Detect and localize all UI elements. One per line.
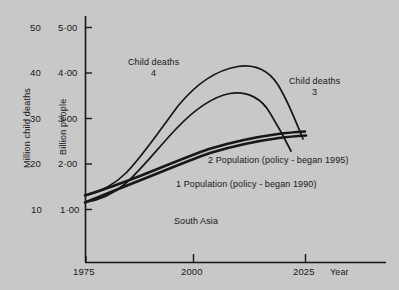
y-tick-primary-1: 1·00	[60, 204, 79, 215]
y-tick-secondary-50: 50	[30, 22, 41, 33]
series-line-child-deaths-4	[85, 66, 303, 196]
y-tick-primary-5: 5·00	[58, 22, 77, 33]
x-tick-2000: 2000	[181, 266, 203, 277]
series-line-population-1	[85, 136, 306, 203]
annotation-population-2: 2 Population (policy - began 1995)	[208, 155, 349, 166]
y-tick-primary-2: 2·00	[58, 158, 77, 169]
annotation-region: South Asia	[174, 216, 218, 227]
y-tick-secondary-10: 10	[31, 204, 42, 215]
annotation-child-deaths-4: Child deaths 4	[128, 57, 179, 79]
y-tick-primary-4: 4·00	[58, 67, 77, 78]
annotation-child-deaths-4-line1: Child deaths	[128, 57, 179, 67]
y-tick-secondary-20: 20	[30, 158, 41, 169]
y-axis-title-secondary: Million child deaths	[22, 88, 32, 168]
x-axis-ticks	[86, 254, 306, 262]
x-tick-2025: 2025	[293, 266, 315, 277]
y-axis-title-primary: Billion people	[58, 99, 68, 155]
annotation-child-deaths-3-line2: 3	[289, 87, 340, 98]
chart-figure: Million child deaths Billion people 50 4…	[0, 0, 399, 290]
x-axis-title: Year	[330, 267, 349, 278]
annotation-child-deaths-3-line1: Child deaths	[289, 76, 340, 86]
annotation-child-deaths-3: Child deaths 3	[289, 76, 340, 98]
annotation-population-1: 1 Population (policy - began 1990)	[176, 179, 317, 190]
y-tick-secondary-30: 30	[30, 113, 41, 124]
x-tick-1975: 1975	[73, 266, 95, 277]
y-tick-primary-3: 3·00	[58, 113, 77, 124]
annotation-child-deaths-4-line2: 4	[128, 68, 179, 79]
y-tick-secondary-40: 40	[30, 67, 41, 78]
